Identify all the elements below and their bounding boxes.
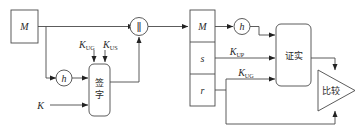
packet-row-label-m: M <box>197 21 207 32</box>
key-us-left-sub: US <box>110 44 118 51</box>
compare-char1: 比 <box>322 85 331 96</box>
key-us-left-label: KUS <box>102 39 118 51</box>
message-box-left-label: M <box>19 21 29 32</box>
key-input-label: K <box>36 100 45 111</box>
wire-r-to-verify <box>215 79 275 90</box>
signature-verification-diagram: M h K KUG KUS 签 字 ∥ M s r h KUP KUG <box>0 0 360 131</box>
packet-row-label-s: s <box>201 53 205 64</box>
key-ug-left-label: KUG <box>78 39 95 51</box>
sign-box-label-char1: 签 <box>95 77 104 88</box>
wire-verify-to-compare <box>311 58 335 70</box>
verify-box-label: 证实 <box>285 50 303 61</box>
hash-node-right-label: h <box>240 21 245 32</box>
compare-node-label: 比较 <box>322 85 340 96</box>
sign-box-label-char2: 字 <box>95 89 104 100</box>
verify-box-char1: 证 <box>285 51 294 61</box>
key-up-label: KUP <box>229 46 245 58</box>
concat-node-label: ∥ <box>136 21 141 33</box>
key-ug-right-label: KUG <box>237 67 254 79</box>
wire-hash-to-verify <box>250 27 275 36</box>
diagram-canvas: M h K KUG KUS 签 字 ∥ M s r h KUP KUG <box>0 0 360 131</box>
key-ug-right-sub: UG <box>245 72 254 79</box>
hash-node-left-label: h <box>62 73 67 84</box>
verify-box-char2: 实 <box>294 50 303 61</box>
packet-row-label-r: r <box>201 85 205 96</box>
key-up-sub: UP <box>236 51 244 58</box>
compare-char2: 较 <box>331 85 340 96</box>
key-ug-left-sub: UG <box>86 44 95 51</box>
